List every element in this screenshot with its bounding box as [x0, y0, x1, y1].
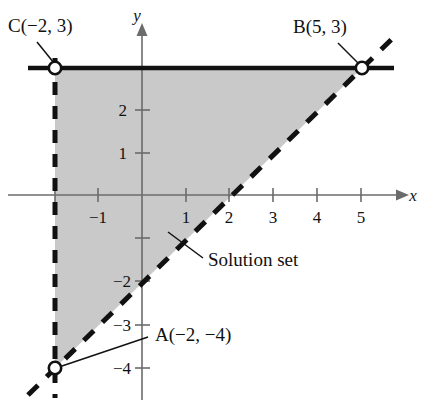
x-axis-label: x	[408, 186, 417, 205]
y-tick-label--4: −4	[113, 359, 132, 378]
x-tick-label-5: 5	[357, 208, 366, 227]
x-axis-arrowhead	[396, 190, 409, 201]
point-a-label: A(−2, −4)	[155, 324, 231, 346]
x-tick-label-1: 1	[182, 208, 191, 227]
point-c-label: C(−2, 3)	[8, 15, 73, 37]
vertex-marker-b	[356, 62, 368, 74]
leader-line-c	[37, 42, 54, 63]
y-axis-label: y	[131, 6, 141, 25]
coordinate-plane-figure: −1 1 2 3 4 5 2 1 −2 −3 −4 x y C(−2, 3) B…	[0, 0, 423, 409]
x-tick-label--1: −1	[89, 208, 107, 227]
graph-canvas: −1 1 2 3 4 5 2 1 −2 −3 −4 x y C(−2, 3) B…	[0, 0, 423, 409]
y-tick-label--2: −2	[113, 272, 131, 291]
x-tick-label-4: 4	[313, 208, 322, 227]
solution-set-label: Solution set	[208, 249, 299, 270]
y-tick-label--3: −3	[113, 316, 131, 335]
y-tick-label-2: 2	[119, 101, 128, 120]
point-b-label: B(5, 3)	[293, 16, 347, 38]
x-tick-label-2: 2	[225, 208, 234, 227]
vertex-marker-a	[49, 362, 61, 374]
leader-line-b	[338, 43, 358, 63]
vertex-marker-c	[49, 62, 61, 74]
y-tick-label-1: 1	[119, 144, 128, 163]
x-tick-label-3: 3	[269, 208, 278, 227]
